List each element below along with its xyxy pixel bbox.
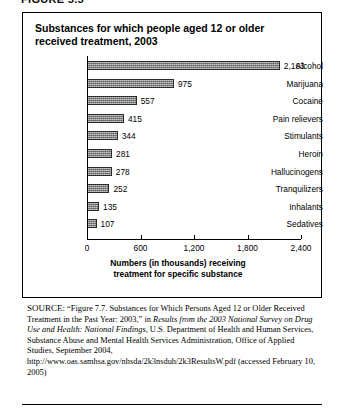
figure-label: FIGURE 5.5 [21, 0, 84, 5]
bar-track: 278 [87, 165, 323, 179]
bar-row: Inhalants135 [23, 200, 323, 214]
x-axis-title: Numbers (in thousands) receivingtreatmen… [73, 258, 283, 280]
bar-chart-plot: Alcohol2,163Marijuana975Cocaine557Pain r… [23, 13, 323, 299]
chart-panel: Substances for which people aged 12 or o… [22, 12, 322, 298]
bar-row: Tranquilizers252 [23, 182, 323, 196]
bar [87, 114, 124, 123]
x-axis-tick-label: 2,400 [281, 243, 321, 253]
x-axis-line [87, 239, 301, 240]
bar-row: Cocaine557 [23, 94, 323, 108]
bar-row: Marijuana975 [23, 77, 323, 91]
bar-row: Heroin281 [23, 147, 323, 161]
bar-value-label: 281 [116, 147, 130, 161]
bar-track: 252 [87, 182, 323, 196]
bar [87, 149, 112, 158]
bar-row: Pain relievers415 [23, 112, 323, 126]
bar [87, 202, 99, 211]
bar-track: 107 [87, 217, 323, 231]
x-axis-tick [301, 235, 302, 239]
x-axis-title-line2: treatment for specific substance [73, 269, 283, 280]
bar [87, 131, 118, 140]
bar-row: Alcohol2,163 [23, 59, 323, 73]
source-label: SOURCE: [27, 303, 65, 313]
x-axis-tick [194, 235, 195, 239]
bar [87, 184, 109, 193]
bar-row: Hallucinogens278 [23, 165, 323, 179]
source-note: SOURCE: “Figure 7.7. Substances for Whic… [27, 303, 319, 378]
bar-value-label: 415 [128, 112, 142, 126]
x-axis-tick-label: 0 [67, 243, 107, 253]
bar [87, 219, 97, 228]
bar-track: 281 [87, 147, 323, 161]
x-axis-title-line1: Numbers (in thousands) receiving [73, 258, 283, 269]
x-axis-tick-label: 1,200 [174, 243, 214, 253]
bar [87, 96, 137, 105]
bar-value-label: 107 [101, 217, 115, 231]
x-axis-tick [141, 235, 142, 239]
bar-value-label: 278 [116, 165, 130, 179]
y-axis-line [87, 56, 88, 239]
bar-track: 557 [87, 94, 323, 108]
bar-value-label: 252 [113, 182, 127, 196]
bar-value-label: 344 [122, 129, 136, 143]
x-axis-tick [248, 235, 249, 239]
bar-track: 975 [87, 77, 323, 91]
bar [87, 61, 280, 70]
bar [87, 79, 174, 88]
bar-track: 344 [87, 129, 323, 143]
bar-value-label: 975 [178, 77, 192, 91]
bar-value-label: 2,163 [284, 59, 305, 73]
bar-value-label: 135 [103, 200, 117, 214]
bar-row: Sedatives107 [23, 217, 323, 231]
x-axis-tick-label: 600 [121, 243, 161, 253]
x-axis-tick [87, 235, 88, 239]
bar-track: 2,163 [87, 59, 323, 73]
bar-value-label: 557 [141, 94, 155, 108]
bar-track: 415 [87, 112, 323, 126]
bar-row: Stimulants344 [23, 129, 323, 143]
bar-track: 135 [87, 200, 323, 214]
bar [87, 167, 112, 176]
x-axis-tick-label: 1,800 [228, 243, 268, 253]
bottom-divider [22, 404, 322, 405]
